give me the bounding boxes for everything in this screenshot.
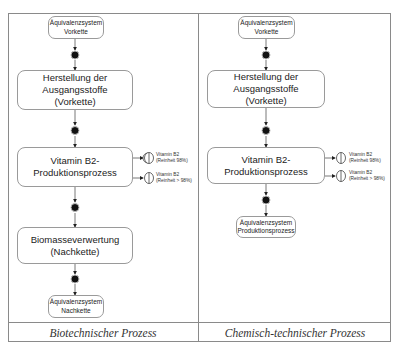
box-text: Vitamin B2- — [51, 155, 100, 167]
box-text: Äquivalenzsystem — [50, 298, 102, 307]
box-text: Herstellung der Ausgangsstoffe — [18, 72, 132, 96]
right-step2-box: Vitamin B2- Produktionsprozess — [207, 147, 325, 184]
box-text: (Vorkette) — [245, 95, 286, 107]
box-text: Biomasseverwertung — [31, 234, 120, 246]
box-text: (Vorkette) — [54, 96, 95, 108]
right-step1-box: Herstellung der Ausgangsstoffe (Vorkette… — [207, 70, 325, 108]
box-text: Äquivalenzsystem — [240, 19, 292, 28]
box-text: Produktionsprozess — [33, 167, 116, 179]
left-step1-box: Herstellung der Ausgangsstoffe (Vorkette… — [17, 70, 133, 110]
left-step2-box: Vitamin B2- Produktionsprozess — [17, 147, 133, 187]
box-text: Vorkette — [64, 28, 88, 37]
right-column-title: Chemisch-technischer Prozess — [199, 324, 391, 342]
box-text: Herstellung der Ausgangsstoffe — [208, 71, 324, 95]
right-start-box: Äquivalenzsystem Vorkette — [238, 16, 295, 39]
box-text: Vitamin B2- — [242, 154, 291, 166]
right-output-2-label: Vitamin B2 (Reinheit > 98%) — [349, 170, 385, 182]
left-start-box: Äquivalenzsystem Vorkette — [48, 16, 104, 39]
left-output-2-label: Vitamin B2 (Reinheit > 98%) — [156, 172, 192, 184]
left-step3-box: Biomasseverwertung (Nachkette) — [17, 227, 133, 264]
box-text: Produktionsprozess — [224, 166, 307, 178]
box-text: Äquivalenzsystem — [240, 219, 292, 228]
left-column-title: Biotechnischer Prozess — [8, 324, 198, 342]
right-end-box: Äquivalenzsystem Produktionsprozess — [236, 216, 296, 238]
box-text: Vorkette — [255, 28, 279, 37]
box-text: Nachkette — [61, 307, 90, 316]
box-text: Äquivalenzsystem — [50, 19, 102, 28]
left-end-box: Äquivalenzsystem Nachkette — [48, 295, 104, 318]
box-text: Produktionsprozess — [237, 227, 294, 236]
left-output-1-label: Vitamin B2 (Reinheit 98%) — [156, 152, 188, 164]
box-text: (Nachkette) — [50, 246, 99, 258]
right-output-1-label: Vitamin B2 (Reinheit 98%) — [349, 152, 381, 164]
